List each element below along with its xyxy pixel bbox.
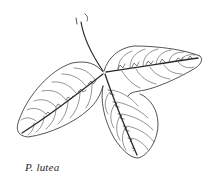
left-leaflet xyxy=(17,62,103,137)
leaf-illustration xyxy=(0,0,214,181)
botanical-figure: P. lutea xyxy=(0,0,214,181)
figure-caption: P. lutea xyxy=(25,161,59,173)
bottom-leaflet xyxy=(102,74,158,158)
right-leaflet xyxy=(104,46,202,96)
